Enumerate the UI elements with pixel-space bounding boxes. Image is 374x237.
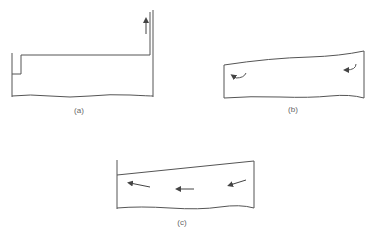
panel-a-label: (a) <box>74 106 84 115</box>
panel-c-tank <box>117 160 254 209</box>
curved-arrow-right-icon <box>346 64 356 70</box>
diagram-canvas <box>0 0 374 237</box>
panel-a-tank <box>12 10 153 97</box>
panel-b-label: (b) <box>288 105 298 114</box>
panel-c-label: (c) <box>177 218 186 227</box>
flow-arrow-icon <box>230 180 246 185</box>
flow-arrow-icon <box>130 183 150 187</box>
curved-arrow-left-icon <box>233 73 246 78</box>
panel-b-tank <box>224 51 364 98</box>
